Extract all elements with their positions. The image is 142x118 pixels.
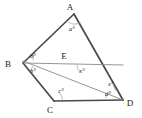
vertex-label-d: D: [127, 98, 134, 108]
vertex-label-b: B: [5, 59, 11, 69]
angle-label-e: x°: [78, 67, 85, 74]
angle-label-c: c°: [58, 87, 64, 94]
vertex-label-a: A: [67, 2, 74, 12]
segment-ad: [74, 14, 123, 100]
angle-label-b-lower: b°: [30, 67, 36, 74]
angle-label-b-upper: b°: [30, 52, 36, 59]
angle-label-d-upper: e°: [108, 80, 114, 87]
vertex-label-e: E: [61, 51, 67, 61]
figure-canvas: A B C D E a° b° b° c° x° e° d°: [0, 0, 142, 118]
segment-bc: [23, 63, 54, 101]
angle-label-d-lower: d°: [105, 90, 111, 97]
segment-bed-horizontal: [23, 63, 123, 65]
geometry-figure: A B C D E a° b° b° c° x° e° d°: [0, 0, 142, 118]
segment-cd: [54, 100, 123, 101]
angle-label-a: a°: [69, 25, 75, 32]
vertex-label-c: C: [47, 105, 53, 115]
